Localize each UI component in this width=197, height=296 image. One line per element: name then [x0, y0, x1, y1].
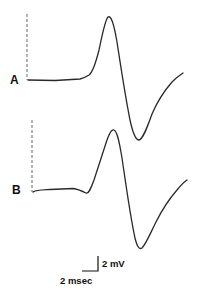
- panel-label-b: B: [12, 183, 21, 197]
- trace-a: [28, 17, 183, 140]
- figure-canvas: A B 2 mV 2 msec: [0, 0, 197, 296]
- panel-label-a: A: [10, 73, 19, 87]
- scale-label-voltage: 2 mV: [102, 258, 125, 269]
- trace-b: [33, 130, 187, 249]
- scale-bar: [82, 256, 98, 271]
- scale-label-time: 2 msec: [60, 275, 92, 286]
